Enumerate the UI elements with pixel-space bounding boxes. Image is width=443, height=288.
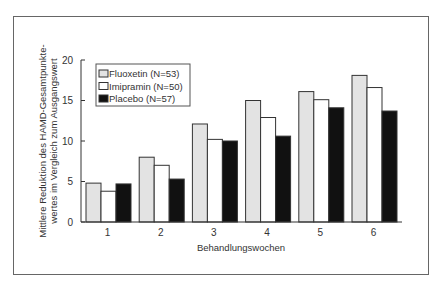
y-tick-label: 20 <box>62 55 74 66</box>
bar-week-4-series-0 <box>246 101 261 223</box>
x-tick-label: 4 <box>264 227 270 238</box>
y-tick-label: 0 <box>67 217 73 228</box>
bar-week-5-series-0 <box>299 92 314 222</box>
legend-swatch <box>99 83 108 90</box>
x-tick-label: 5 <box>318 227 324 238</box>
x-tick-label: 1 <box>105 227 111 238</box>
y-axis-title: Mittlere Reduktion des HAMD-Gesamtpunkte… <box>37 44 59 237</box>
bar-week-2-series-2 <box>169 179 184 222</box>
legend-label: Imipramin (N=50) <box>109 81 183 92</box>
y-tick-label: 10 <box>62 136 74 147</box>
bar-week-3-series-1 <box>207 139 222 222</box>
bar-week-6-series-1 <box>367 88 382 222</box>
y-axis-title-line-2: wertes im Vergleich zum Ausgangswert <box>48 58 59 225</box>
legend: Fluoxetin (N=53)Imipramin (N=50)Placebo … <box>96 64 190 106</box>
y-tick-label: 15 <box>62 95 74 106</box>
x-tick-label: 3 <box>211 227 217 238</box>
y-axis-title-line-1: Mittlere Reduktion des HAMD-Gesamtpunkte… <box>37 44 48 237</box>
x-axis-title: Behandlungswochen <box>197 242 285 253</box>
legend-label: Fluoxetin (N=53) <box>109 68 180 79</box>
y-tick-label: 5 <box>67 176 73 187</box>
legend-swatch <box>99 70 108 77</box>
bar-week-4-series-2 <box>276 136 291 222</box>
bar-week-2-series-0 <box>139 157 154 222</box>
bar-week-1-series-0 <box>86 183 101 222</box>
legend-swatch <box>99 95 108 102</box>
bar-week-2-series-1 <box>154 165 169 222</box>
bar-chart: 05101520123456 Fluoxetin (N=53)Imipramin… <box>0 0 443 288</box>
bar-week-1-series-1 <box>101 191 116 222</box>
x-tick-label: 6 <box>371 227 377 238</box>
bar-week-3-series-0 <box>192 124 207 222</box>
bar-week-1-series-2 <box>116 184 131 222</box>
bar-week-6-series-0 <box>352 75 367 222</box>
bar-week-5-series-2 <box>329 108 344 222</box>
legend-label: Placebo (N=57) <box>109 93 175 104</box>
bar-week-6-series-2 <box>382 111 397 222</box>
bar-week-5-series-1 <box>314 100 329 222</box>
x-tick-label: 2 <box>158 227 164 238</box>
bar-week-4-series-1 <box>261 118 276 222</box>
bar-week-3-series-2 <box>222 141 237 222</box>
